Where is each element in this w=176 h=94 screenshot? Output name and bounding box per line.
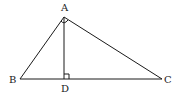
label-b: B	[9, 74, 16, 85]
triangle-diagram: A B C D	[0, 0, 176, 94]
right-angle-mark-d	[64, 74, 69, 79]
label-c: C	[164, 74, 172, 85]
segment-ac	[64, 17, 162, 79]
label-d: D	[61, 83, 69, 94]
label-a: A	[60, 2, 69, 13]
segment-ab	[20, 17, 64, 79]
